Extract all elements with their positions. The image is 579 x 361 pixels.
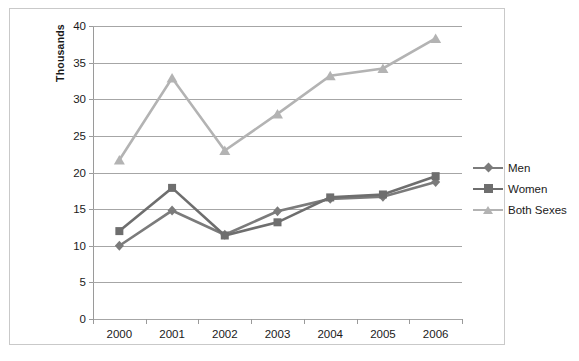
series-both-sexes <box>114 33 441 164</box>
series-layer <box>93 26 462 319</box>
chart-frame: Thousands 0510152025303540 2000200120022… <box>9 8 505 345</box>
data-point-marker <box>274 218 282 226</box>
legend-item-women[interactable]: Women <box>473 178 579 199</box>
legend-key-triangle-icon <box>473 203 503 217</box>
chart-legend: MenWomenBoth Sexes <box>473 157 579 220</box>
x-tick-label: 2006 <box>423 328 449 340</box>
x-tick-label: 2004 <box>317 328 343 340</box>
x-tick-mark <box>146 319 147 324</box>
y-tick-label: 15 <box>73 203 86 215</box>
x-tick-mark <box>357 319 358 324</box>
y-tick-label: 0 <box>80 313 86 325</box>
series-men <box>115 177 440 251</box>
data-point-marker <box>167 73 178 83</box>
legend-item-men[interactable]: Men <box>473 157 579 178</box>
data-point-marker <box>326 193 334 201</box>
x-tick-label: 2005 <box>370 328 396 340</box>
legend-key-square-icon <box>473 182 503 196</box>
legend-marker-triangle-icon <box>483 206 493 214</box>
y-tick-label: 20 <box>73 167 86 179</box>
x-tick-mark <box>93 319 94 324</box>
y-tick-label: 10 <box>73 240 86 252</box>
series-line <box>119 38 435 160</box>
x-tick-mark <box>409 319 410 324</box>
data-point-marker <box>430 33 441 43</box>
y-tick-label: 25 <box>73 130 86 142</box>
y-tick-label: 5 <box>80 276 86 288</box>
y-tick-label: 30 <box>73 93 86 105</box>
data-point-marker <box>221 231 229 239</box>
series-line <box>119 176 435 235</box>
x-tick-label: 2001 <box>159 328 185 340</box>
gridline <box>93 319 462 320</box>
legend-label: Both Sexes <box>508 204 567 216</box>
x-tick-mark <box>251 319 252 324</box>
data-point-marker <box>273 206 282 216</box>
data-point-marker <box>115 227 123 235</box>
x-tick-mark <box>304 319 305 324</box>
data-point-marker <box>379 190 387 198</box>
y-tick-label: 35 <box>73 57 86 69</box>
legend-marker-square-icon <box>484 184 493 193</box>
data-point-marker <box>114 155 125 165</box>
series-women <box>115 172 439 239</box>
plot-area: 0510152025303540 20002001200220032004200… <box>93 26 462 319</box>
x-tick-label: 2003 <box>265 328 291 340</box>
x-tick-mark <box>462 319 463 324</box>
x-tick-label: 2002 <box>212 328 238 340</box>
y-tick-label: 40 <box>73 20 86 32</box>
legend-label: Men <box>508 162 530 174</box>
legend-marker-diamond-icon <box>483 163 493 173</box>
legend-item-both-sexes[interactable]: Both Sexes <box>473 199 579 220</box>
x-tick-label: 2000 <box>107 328 133 340</box>
y-axis-title: Thousands <box>54 0 66 113</box>
data-point-marker <box>168 184 176 192</box>
data-point-marker <box>432 172 440 180</box>
legend-label: Women <box>508 183 547 195</box>
x-tick-mark <box>198 319 199 324</box>
legend-key-diamond-icon <box>473 161 503 175</box>
